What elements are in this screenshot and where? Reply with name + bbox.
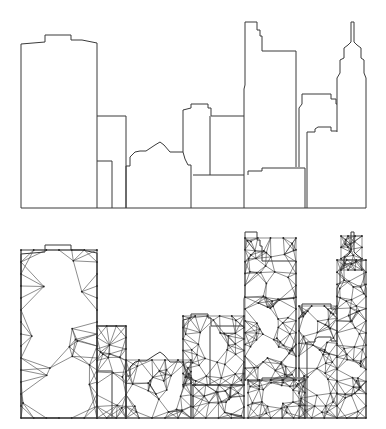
mesh-node [289,386,291,388]
mesh-edge [287,407,293,418]
mesh-edge [337,398,345,406]
mesh-node [223,333,225,335]
mesh-node [336,393,338,395]
mesh-edge [278,319,283,323]
mesh-node [187,367,189,369]
mesh-edge [326,362,333,363]
mesh-node [282,382,284,384]
mesh-edge [133,384,149,391]
mesh-node [352,359,354,361]
mesh-edge [21,358,50,368]
mesh-edge [337,357,347,359]
mesh-edge [182,406,191,411]
mesh-node [256,339,258,341]
mesh-node [307,310,309,312]
mesh-edge [152,360,153,377]
mesh-edge [352,287,354,300]
mesh-edge [97,358,108,373]
mesh-node [298,405,300,407]
mesh-edge [352,294,364,300]
mesh-edge [107,326,110,345]
mesh-edge [198,333,200,345]
mesh-node [122,376,124,378]
mesh-edge [263,334,274,339]
mesh-node [284,374,286,376]
mesh-node [195,380,197,382]
mesh-edge [126,360,133,384]
mesh-edge [262,390,263,402]
mesh-node [280,363,282,365]
mesh-edge [47,368,50,375]
mesh-node [327,326,329,328]
mesh-node [336,369,338,371]
mesh-node [159,370,161,372]
mesh-node [219,332,221,334]
mesh-node [298,305,300,307]
mesh-node [231,315,233,317]
mesh-edge [288,277,296,285]
mesh-edge [238,393,244,407]
mesh-edge [198,344,205,358]
mesh-node [359,363,361,365]
mesh-edge [251,255,256,259]
mesh-edge [288,277,296,297]
mesh-node [149,384,151,386]
mesh-node [312,344,314,346]
mesh-edge [227,350,235,355]
mesh-node [304,313,306,315]
building-outline-8 [248,168,305,208]
mesh-node [220,377,222,379]
mesh-node [270,382,272,384]
mesh-node [237,392,239,394]
mesh-node [363,293,365,295]
mesh-node [331,361,333,363]
mesh-edge [21,274,44,287]
mesh-node [263,250,265,252]
mesh-edge [259,389,262,402]
mesh-edge [236,354,244,362]
mesh-node [365,259,367,261]
mesh-edge [333,393,337,402]
mesh-edge [288,262,296,278]
mesh-node [285,365,287,367]
mesh-edge [77,334,97,341]
mesh-node [344,393,346,395]
mesh-edge [97,373,113,384]
mesh-node [31,335,33,337]
mesh-edge [328,318,337,319]
mesh-edge [337,272,349,281]
mesh-node [281,385,283,387]
mesh-edge [245,303,258,309]
mesh-node [327,308,329,310]
mesh-node [250,240,252,242]
mesh-node [336,259,338,261]
mesh-edge [293,401,301,403]
mesh-node [347,235,349,237]
mesh-node [272,305,274,307]
mesh-edge [245,273,257,285]
mesh-edge [169,412,179,418]
mesh-edge [84,394,97,418]
mesh-edge [183,328,200,333]
mesh-edge [183,351,193,363]
mesh-edge [359,311,366,321]
mesh-node [355,261,357,263]
mesh-edge [305,411,311,419]
mesh-node [280,361,282,363]
mesh-node [328,353,330,355]
mesh-node [219,315,221,317]
mesh-node [254,250,256,252]
mesh-edge [76,339,98,346]
mesh-edge [213,320,224,333]
mesh-node [298,392,300,394]
mesh-edge [167,376,172,390]
mesh-node [228,398,230,400]
mesh-node [107,357,109,359]
mesh-node [286,376,288,378]
mesh-edge [317,393,331,395]
mesh-node [96,249,98,251]
mesh-node [283,345,285,347]
mesh-node [344,243,346,245]
mesh-edge [327,342,337,343]
mesh-node [326,411,328,413]
